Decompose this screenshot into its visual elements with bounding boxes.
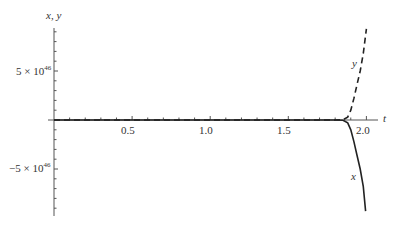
curve-label-y: y <box>352 58 357 69</box>
y-tick-label-pos: 5 × 1046 <box>16 66 51 77</box>
x-tick-label-1.5: 1.5 <box>277 125 291 136</box>
y-tick-pos-exp: 46 <box>44 64 51 72</box>
plot-area <box>0 0 398 225</box>
x-tick-label-1.0: 1.0 <box>199 125 213 136</box>
curve-label-x: x <box>351 171 356 182</box>
y-tick-label-neg: −5 × 1046 <box>9 163 50 174</box>
x-tick-label-0.5: 0.5 <box>121 125 135 136</box>
y-tick-neg-base: −5 × 10 <box>9 162 43 174</box>
y-axis-label: x, y <box>46 10 61 21</box>
y-tick-neg-exp: 46 <box>43 161 50 169</box>
x-axis-label: t <box>383 113 386 124</box>
y-tick-pos-base: 5 × 10 <box>16 65 44 77</box>
x-tick-label-2.0: 2.0 <box>356 125 370 136</box>
series-y-curve <box>54 29 366 120</box>
